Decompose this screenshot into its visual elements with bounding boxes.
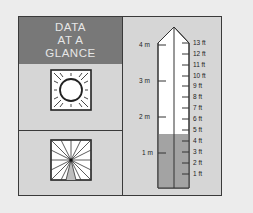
metric-label-2m: 2 m bbox=[139, 113, 150, 120]
metric-label-3m: 3 m bbox=[139, 77, 150, 84]
left-column: DATA AT A GLANCE bbox=[19, 17, 123, 195]
title-line-2: AT A bbox=[19, 34, 122, 47]
fan-cell bbox=[19, 131, 122, 195]
title-line-3: GLANCE bbox=[19, 47, 122, 60]
metric-label-4m: 4 m bbox=[139, 41, 150, 48]
ft-label-12: 12 ft bbox=[193, 50, 206, 57]
fan-rays-icon bbox=[19, 131, 123, 195]
ft-label-1: 1 ft bbox=[193, 170, 202, 177]
ft-label-11: 11 ft bbox=[193, 61, 205, 68]
depth-gauge: 4 m 3 m 2 m 1 m 13 ft 12 ft 11 ft 10 ft … bbox=[123, 17, 221, 195]
ft-label-3: 3 ft bbox=[193, 148, 202, 155]
sun-icon bbox=[19, 64, 123, 130]
sun-cell bbox=[19, 64, 122, 131]
metric-label-1m: 1 m bbox=[142, 149, 153, 156]
ft-label-8: 8 ft bbox=[193, 93, 202, 100]
ft-label-2: 2 ft bbox=[193, 159, 202, 166]
title-block: DATA AT A GLANCE bbox=[19, 17, 122, 64]
ft-label-9: 9 ft bbox=[193, 82, 202, 89]
data-at-a-glance-panel: DATA AT A GLANCE bbox=[18, 16, 222, 196]
ft-label-10: 10 ft bbox=[193, 72, 206, 79]
title-line-1: DATA bbox=[19, 21, 122, 34]
ft-label-6: 6 ft bbox=[193, 115, 202, 122]
ft-label-7: 7 ft bbox=[193, 104, 202, 111]
ft-label-13: 13 ft bbox=[193, 39, 206, 46]
depth-gauge-graphic bbox=[123, 17, 221, 195]
ft-label-5: 5 ft bbox=[193, 126, 202, 133]
ft-label-4: 4 ft bbox=[193, 137, 202, 144]
